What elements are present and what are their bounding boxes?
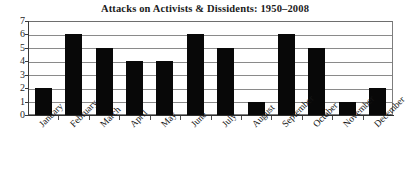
x-tick-mark <box>241 116 242 120</box>
y-tick-mark <box>25 48 29 49</box>
x-tick-mark <box>302 116 303 120</box>
x-tick-mark <box>332 116 333 120</box>
y-tick-mark <box>25 21 29 22</box>
x-tick-label: August <box>250 103 276 129</box>
x-tick-mark <box>271 116 272 120</box>
x-tick-mark <box>211 116 212 120</box>
x-tick-label: December <box>372 94 407 129</box>
x-tick-label: October <box>311 100 340 129</box>
x-tick-mark <box>150 116 151 120</box>
x-tick-mark <box>58 116 59 120</box>
x-tick-mark <box>180 116 181 120</box>
y-tick-mark <box>25 115 29 116</box>
y-tick-mark <box>25 34 29 35</box>
x-tick-mark <box>89 116 90 120</box>
y-tick-mark <box>25 102 29 103</box>
x-tick-label: April <box>128 108 149 129</box>
y-tick-mark <box>25 88 29 89</box>
x-tick-label: July <box>220 111 238 129</box>
y-tick-mark <box>25 61 29 62</box>
x-axis-tick-labels: JanuaryFebruaryMarchAprilMayJuneJulyAugu… <box>0 0 410 172</box>
x-tick-mark <box>119 116 120 120</box>
x-tick-label: February <box>68 98 99 129</box>
x-tick-label: May <box>159 110 178 129</box>
y-tick-mark <box>25 75 29 76</box>
x-tick-label: June <box>189 110 208 129</box>
bar-chart: Attacks on Activists & Dissidents: 1950–… <box>0 0 410 172</box>
x-tick-label: November <box>341 94 376 129</box>
x-tick-mark <box>363 116 364 120</box>
x-tick-label: January <box>37 101 65 129</box>
x-tick-label: September <box>280 93 316 129</box>
